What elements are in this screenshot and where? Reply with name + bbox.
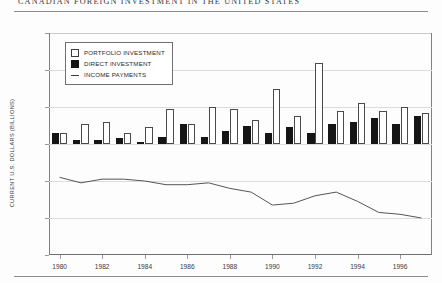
- x-tick-label: 1992: [295, 264, 335, 271]
- legend-item-portfolio: PORTFOLIO INVESTMENT: [71, 47, 167, 58]
- chart-plot-area: 6040200-20-40-60 19801982198419861988199…: [49, 33, 432, 255]
- title-divider: [14, 11, 428, 12]
- x-tick-label: 1980: [40, 264, 80, 271]
- x-tick-mark: [315, 255, 316, 259]
- legend-label-portfolio: PORTFOLIO INVESTMENT: [84, 49, 165, 56]
- legend-item-direct: DIRECT INVESTMENT: [71, 58, 167, 69]
- x-tick-label: 1984: [125, 264, 165, 271]
- x-tick-mark: [400, 255, 401, 259]
- x-tick-mark: [102, 255, 103, 259]
- x-tick-label: 1996: [380, 264, 420, 271]
- line-swatch-icon: [71, 71, 79, 79]
- legend-label-direct: DIRECT INVESTMENT: [84, 60, 152, 67]
- x-tick-mark: [187, 255, 188, 259]
- x-tick-mark: [145, 255, 146, 259]
- open-square-swatch-icon: [71, 49, 79, 57]
- x-tick-mark: [272, 255, 273, 259]
- x-tick-label: 1988: [210, 264, 250, 271]
- y-axis-label: CURRENT U.S. DOLLARS (BILLIONS): [9, 78, 15, 228]
- bottom-divider: [14, 276, 428, 277]
- filled-square-swatch-icon: [71, 60, 79, 68]
- legend-label-income: INCOME PAYMENTS: [84, 71, 146, 78]
- x-tick-label: 1982: [82, 264, 122, 271]
- legend-item-income: INCOME PAYMENTS: [71, 69, 167, 80]
- x-tick-mark: [358, 255, 359, 259]
- x-tick-mark: [60, 255, 61, 259]
- x-tick-mark: [230, 255, 231, 259]
- chart-title: CANADIAN FOREIGN INVESTMENT IN THE UNITE…: [18, 0, 438, 9]
- y-tick-mark: [45, 255, 49, 256]
- chart-legend: PORTFOLIO INVESTMENT DIRECT INVESTMENT I…: [65, 42, 173, 85]
- x-tick-label: 1990: [252, 264, 292, 271]
- x-tick-label: 1986: [167, 264, 207, 271]
- x-tick-label: 1994: [338, 264, 378, 271]
